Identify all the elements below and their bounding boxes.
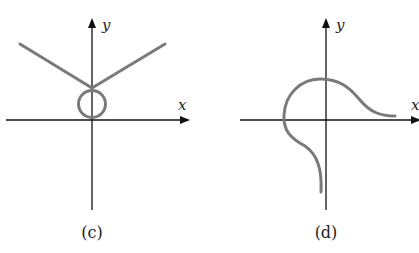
y-axis-label-c: y	[101, 16, 111, 34]
caption-c: (c)	[81, 223, 102, 242]
x-axis-label-c: x	[178, 96, 187, 114]
y-axis-label-d: y	[335, 16, 345, 34]
x-axis-label-d: x	[411, 96, 419, 114]
curve-d	[284, 79, 395, 192]
panel-d: y x (d)	[240, 16, 419, 242]
curve-c-right-ray	[92, 44, 165, 88]
curve-c-left-ray	[20, 44, 92, 88]
figure-canvas: y x (c) y x (d)	[0, 0, 419, 253]
caption-d: (d)	[315, 223, 338, 242]
panel-c: y x (c)	[6, 16, 188, 242]
